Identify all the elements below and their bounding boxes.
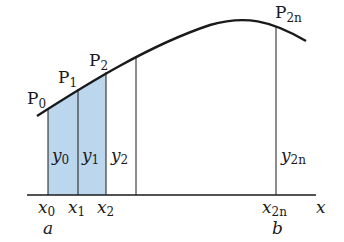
label-y2: y2 <box>110 145 128 167</box>
label-x2n: x2n <box>262 197 287 219</box>
label-p2: P2 <box>89 50 108 73</box>
label-x-axis: x <box>316 197 326 217</box>
label-p0: P0 <box>27 88 46 111</box>
label-p1: P1 <box>58 67 77 90</box>
label-x2: x2 <box>97 197 114 219</box>
simpson-diagram: P0 P1 P2 P2n y0 y1 y2 y2n x0 x1 x2 x2n a… <box>0 0 344 242</box>
label-x0: x0 <box>38 197 55 219</box>
label-a: a <box>43 218 53 238</box>
label-p2n: P2n <box>275 2 302 25</box>
label-x1: x1 <box>68 197 85 219</box>
label-y2n: y2n <box>280 145 306 167</box>
label-b: b <box>272 218 283 238</box>
